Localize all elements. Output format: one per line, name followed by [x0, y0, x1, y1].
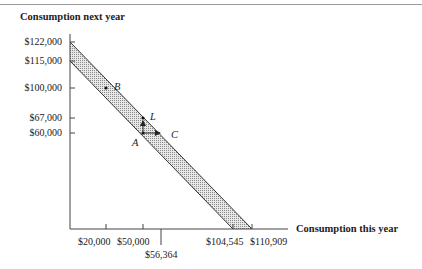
point-label-l: L: [150, 111, 156, 122]
point-l: [141, 116, 144, 119]
chart-plot: [0, 0, 422, 269]
y-tick-60000: $60,000: [4, 127, 62, 139]
y-tick-122000: $122,000: [4, 36, 62, 48]
y-tick-100000: $100,000: [4, 82, 62, 94]
x-tick-20000: $20,000: [78, 236, 111, 248]
point-label-c: C: [171, 129, 178, 140]
x-tick-50000: $50,000: [117, 236, 150, 248]
point-label-b: B: [114, 81, 120, 92]
upper-budget-line: [70, 42, 252, 229]
x-tick-110909: $110,909: [250, 236, 287, 248]
lower-budget-line: [70, 61, 233, 229]
point-label-a: A: [132, 137, 138, 148]
point-b: [104, 86, 107, 89]
x-tick-56364: $56,364: [145, 249, 178, 261]
x-tick-104545: $104,545: [206, 236, 244, 248]
y-tick-115000: $115,000: [4, 55, 62, 67]
y-tick-67000: $67,000: [4, 112, 62, 124]
